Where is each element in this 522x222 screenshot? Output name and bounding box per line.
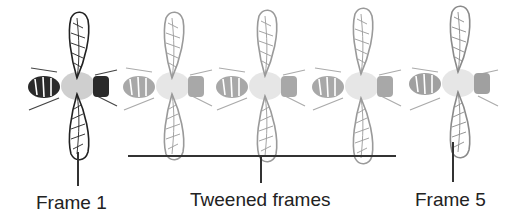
frame-1-pointer-line — [77, 152, 79, 186]
tween-bracket-line — [128, 155, 396, 157]
bee-frame-5-icon — [398, 0, 518, 170]
tween-pointer-line — [260, 155, 262, 183]
frame-5-pointer-line — [452, 142, 454, 182]
tweened-frames-label: Tweened frames — [190, 189, 330, 211]
frame-5-label: Frame 5 — [415, 189, 486, 211]
frame-1-label: Frame 1 — [36, 192, 107, 214]
